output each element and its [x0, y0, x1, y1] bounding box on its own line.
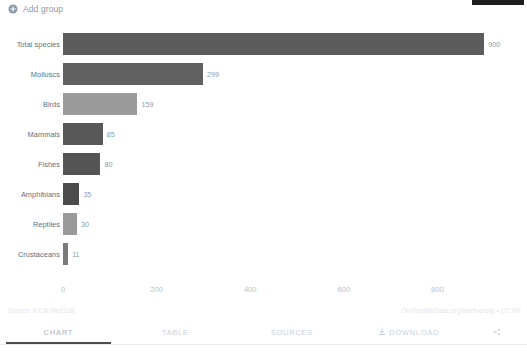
tab-table-label: TABLE [162, 328, 189, 337]
tab-chart[interactable]: CHART [0, 320, 117, 344]
bar-track: 159 [63, 89, 527, 119]
bar-category-label: Amphibians [0, 190, 63, 199]
bar-category-label: Fishes [0, 160, 63, 169]
bar[interactable] [63, 213, 77, 235]
bar-category-label: Crustaceans [0, 250, 63, 259]
bar-row: Molluscs299 [0, 59, 527, 89]
tab-chart-label: CHART [44, 328, 74, 337]
x-axis-tick: 200 [150, 285, 163, 294]
bar-category-label: Birds [0, 100, 63, 109]
attribution-note: OurWorldInData.org/biodiversity • CC BY [401, 307, 521, 314]
bar-value-label: 80 [104, 160, 112, 169]
bar[interactable] [63, 33, 484, 55]
tab-table[interactable]: TABLE [117, 320, 234, 344]
bar-value-label: 11 [72, 250, 79, 259]
tab-download[interactable]: DOWNLOAD [350, 320, 467, 344]
tab-share[interactable] [467, 320, 527, 344]
bar-category-label: Reptiles [0, 220, 63, 229]
bar-category-label: Molluscs [0, 70, 63, 79]
x-axis: 0200400600800 [63, 281, 527, 299]
bar[interactable] [63, 123, 103, 145]
bar-value-label: 35 [83, 190, 91, 199]
bar-value-label: 85 [107, 130, 115, 139]
top-bar-strip [472, 0, 524, 5]
download-icon [378, 328, 386, 336]
bar-row: Birds159 [0, 89, 527, 119]
tab-bar: CHARTTABLESOURCESDOWNLOAD [0, 320, 527, 345]
bar-track: 85 [63, 119, 527, 149]
x-axis-tick: 400 [244, 285, 257, 294]
bar-row: Crustaceans11 [0, 239, 527, 269]
bar-value-label: 299 [207, 70, 219, 79]
bar[interactable] [63, 183, 79, 205]
bar-value-label: 30 [81, 220, 89, 229]
bar-track: 900 [63, 29, 527, 59]
bar[interactable] [63, 153, 100, 175]
bar-category-label: Mammals [0, 130, 63, 139]
x-axis-tick: 800 [431, 285, 444, 294]
bar-track: 11 [63, 239, 527, 269]
bar[interactable] [63, 63, 203, 85]
tab-sources[interactable]: SOURCES [234, 320, 351, 344]
tab-download-label: DOWNLOAD [389, 328, 439, 337]
add-group-button[interactable]: Add group [8, 4, 63, 14]
bar-value-label: 900 [488, 40, 500, 49]
plus-circle-icon [8, 4, 18, 14]
bar-row: Mammals85 [0, 119, 527, 149]
add-group-label: Add group [23, 4, 63, 14]
chart-plot-area: Total species900Molluscs299Birds159Mamma… [0, 27, 527, 299]
share-icon [493, 328, 501, 336]
bar-row: Fishes80 [0, 149, 527, 179]
bar-track: 35 [63, 179, 527, 209]
bar[interactable] [63, 93, 137, 115]
bar-track: 80 [63, 149, 527, 179]
bar-row: Total species900 [0, 29, 527, 59]
source-note: Source: IUCN Red List [8, 307, 75, 314]
bar[interactable] [63, 243, 68, 265]
bar-track: 299 [63, 59, 527, 89]
tab-sources-label: SOURCES [271, 328, 313, 337]
bar-row: Reptiles30 [0, 209, 527, 239]
bar-row: Amphibians35 [0, 179, 527, 209]
x-axis-tick: 0 [61, 285, 65, 294]
bar-value-label: 159 [141, 100, 153, 109]
bar-category-label: Total species [0, 40, 63, 49]
bar-track: 30 [63, 209, 527, 239]
bar-chart: Total species900Molluscs299Birds159Mamma… [0, 27, 527, 299]
x-axis-tick: 600 [338, 285, 351, 294]
